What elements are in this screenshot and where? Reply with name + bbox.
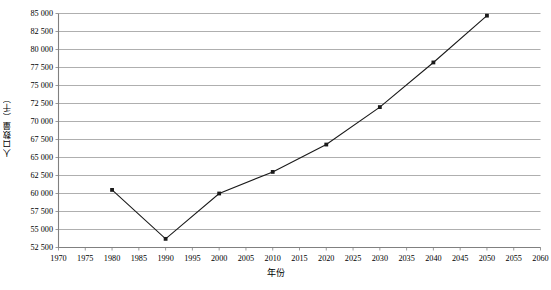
data-markers-group [110, 14, 489, 241]
data-point-marker [110, 188, 114, 192]
x-tick-label: 2060 [532, 254, 548, 263]
x-tick-label: 1985 [131, 254, 147, 263]
x-tick-label: 2050 [479, 254, 495, 263]
data-point-marker [271, 170, 275, 174]
x-tick-label: 2040 [425, 254, 441, 263]
x-tick-label: 2010 [265, 254, 281, 263]
x-tick-label: 1995 [184, 254, 200, 263]
x-tick-label: 1980 [104, 254, 120, 263]
y-tick-label: 52 500 [30, 243, 53, 252]
x-tick-label: 2020 [318, 254, 334, 263]
data-point-marker [485, 14, 489, 18]
y-tick-label: 72 500 [30, 99, 53, 108]
x-tick-label: 2045 [452, 254, 468, 263]
y-tick-label: 82 500 [30, 27, 53, 36]
x-tick-labels-group: 1970197519801985199019952000200520102015… [50, 254, 548, 263]
axis-lines-group [59, 14, 541, 248]
data-point-marker [217, 192, 221, 196]
x-tick-label: 2000 [211, 254, 227, 263]
y-tick-label: 65 000 [30, 153, 53, 162]
y-tick-label: 77 500 [30, 63, 53, 72]
y-tick-label: 60 000 [30, 189, 53, 198]
x-tick-label: 2035 [398, 254, 414, 263]
data-point-marker [431, 61, 435, 65]
x-tick-label: 2030 [372, 254, 388, 263]
x-tick-label: 2005 [238, 254, 254, 263]
population-line-chart: 人口数量（千） 52 50055 00057 50060 00062 50065… [0, 0, 551, 290]
data-point-marker [378, 105, 382, 109]
y-tick-label: 62 500 [30, 171, 53, 180]
x-tick-label: 1970 [50, 254, 66, 263]
x-tick-label: 2055 [506, 254, 522, 263]
data-point-marker [324, 143, 328, 147]
y-tick-label: 85 000 [30, 9, 53, 18]
y-tick-label: 80 000 [30, 45, 53, 54]
y-tick-label: 57 500 [30, 207, 53, 216]
x-axis-title: 年份 [0, 266, 551, 279]
x-tick-label: 2015 [291, 254, 307, 263]
gridlines-group [56, 14, 541, 248]
plot-area: 52 50055 00057 50060 00062 50065 00067 5… [0, 0, 551, 290]
y-tick-labels-group: 52 50055 00057 50060 00062 50065 00067 5… [30, 9, 53, 252]
y-tick-label: 75 000 [30, 81, 53, 90]
y-tick-label: 55 000 [30, 225, 53, 234]
data-point-marker [164, 237, 168, 241]
x-tick-label: 1975 [77, 254, 93, 263]
y-tick-label: 70 000 [30, 117, 53, 126]
y-tick-label: 67 500 [30, 135, 53, 144]
x-tick-label: 2025 [345, 254, 361, 263]
x-tick-label: 1990 [157, 254, 173, 263]
